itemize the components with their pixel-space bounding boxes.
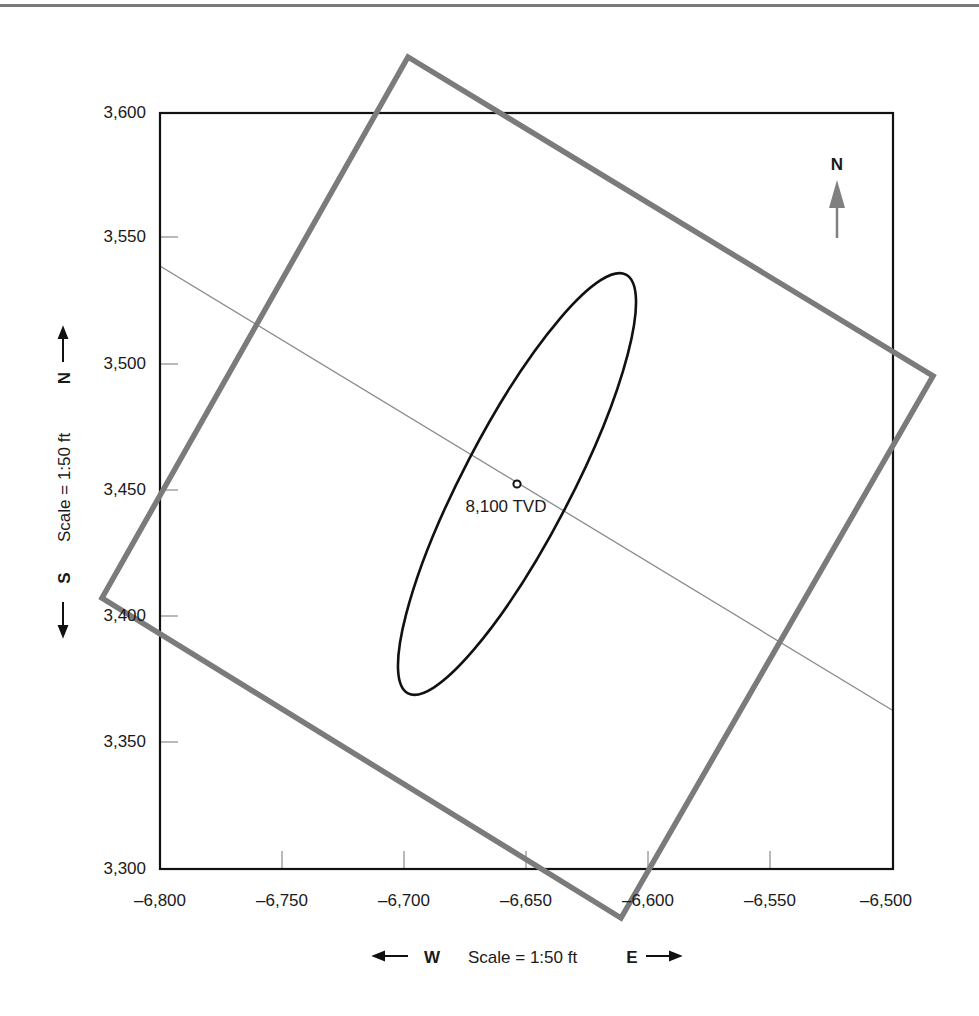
plot-frame (160, 113, 893, 869)
svg-text:–6,800: –6,800 (134, 891, 186, 910)
svg-text:–6,700: –6,700 (378, 891, 430, 910)
arrow-left-icon (374, 952, 408, 960)
y-axis-south-label: S (55, 572, 74, 583)
north-arrow-label: N (831, 155, 843, 174)
svg-text:–6,500: –6,500 (860, 891, 912, 910)
x-axis-east-label: E (626, 948, 637, 967)
x-axis-west-label: W (424, 948, 441, 967)
y-tick-labels: 3,600 3,550 3,500 3,450 3,400 3,350 3,30… (103, 103, 146, 878)
x-axis-title: W Scale = 1:50 ft E (374, 948, 680, 967)
svg-text:–6,650: –6,650 (500, 891, 552, 910)
arrow-right-icon (646, 952, 680, 960)
north-arrow-icon: N (829, 155, 845, 238)
y-axis-title: S Scale = 1:50 ft N (55, 328, 74, 636)
svg-text:3,300: 3,300 (103, 859, 146, 878)
svg-text:–6,750: –6,750 (256, 891, 308, 910)
svg-text:3,400: 3,400 (103, 606, 146, 625)
arrow-down-icon (59, 602, 67, 636)
chart: 8,100 TVD N 3,600 3,550 3,500 3,450 3,40… (0, 0, 979, 1016)
point-label: 8,100 TVD (466, 497, 547, 516)
svg-text:3,350: 3,350 (103, 732, 146, 751)
y-axis-north-label: N (55, 372, 74, 384)
svg-text:3,500: 3,500 (103, 354, 146, 373)
arrow-up-icon (59, 328, 67, 362)
target-point-marker (513, 480, 520, 487)
y-axis-scale-label: Scale = 1:50 ft (55, 433, 74, 542)
svg-text:3,600: 3,600 (103, 103, 146, 122)
svg-text:3,550: 3,550 (103, 227, 146, 246)
x-tick-labels: –6,800 –6,750 –6,700 –6,650 –6,600 –6,55… (134, 891, 912, 910)
x-axis-scale-label: Scale = 1:50 ft (468, 948, 577, 967)
svg-text:–6,600: –6,600 (622, 891, 674, 910)
svg-text:3,450: 3,450 (103, 480, 146, 499)
svg-text:–6,550: –6,550 (744, 891, 796, 910)
